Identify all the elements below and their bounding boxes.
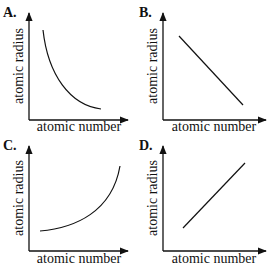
x-axis-label: atomic number	[172, 251, 257, 266]
y-axis-label: atomic radius	[145, 28, 160, 104]
curve-decreasing	[43, 30, 101, 109]
curve-increasing	[40, 166, 120, 231]
panel-d: D. atomic radius atomic number	[139, 138, 266, 266]
panel-b: B. atomic radius atomic number	[139, 5, 266, 134]
x-axis-label: atomic number	[37, 119, 122, 134]
line-decreasing	[179, 36, 243, 105]
y-axis-label: atomic radius	[11, 160, 26, 236]
y-axis-label: atomic radius	[145, 160, 160, 236]
option-label-a: A.	[3, 5, 17, 20]
option-label-b: B.	[139, 5, 152, 20]
option-label-d: D.	[139, 138, 153, 153]
x-axis-label: atomic number	[37, 251, 122, 266]
panel-a: A. atomic radius atomic number	[3, 5, 128, 134]
y-axis-label: atomic radius	[11, 28, 26, 104]
panel-c: C. atomic radius atomic number	[3, 138, 128, 266]
option-label-c: C.	[3, 138, 17, 153]
answer-choice-graphs: A. atomic radius atomic number B. atomic…	[0, 0, 272, 266]
line-increasing	[183, 163, 245, 228]
x-axis-label: atomic number	[172, 119, 257, 134]
